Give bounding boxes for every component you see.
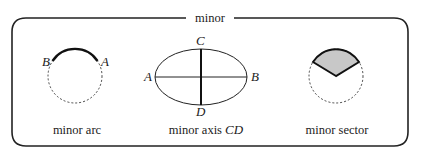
minor-arc-path bbox=[53, 49, 98, 61]
caption-minor-arc: minor arc bbox=[53, 123, 102, 137]
point-label-b: B bbox=[251, 69, 259, 84]
minor-axis-figure: A B C D bbox=[143, 33, 259, 119]
point-label-c: C bbox=[196, 33, 205, 48]
caption-text: minor axis bbox=[169, 123, 225, 137]
minor-arc-figure: B A bbox=[42, 49, 109, 103]
minor-sector-shape bbox=[313, 49, 359, 76]
caption-minor-sector: minor sector bbox=[306, 123, 370, 137]
point-label-d: D bbox=[195, 104, 206, 119]
minor-sector-figure bbox=[309, 49, 363, 103]
point-label-a: A bbox=[100, 54, 109, 69]
point-label-b: B bbox=[42, 54, 50, 69]
minor-diagram: minor B A minor arc A B C D minor axis C… bbox=[0, 0, 422, 155]
caption-minor-axis: minor axis CD bbox=[169, 122, 244, 137]
point-label-a: A bbox=[143, 69, 152, 84]
caption-math: CD bbox=[225, 122, 244, 137]
frame-title: minor bbox=[195, 11, 226, 25]
